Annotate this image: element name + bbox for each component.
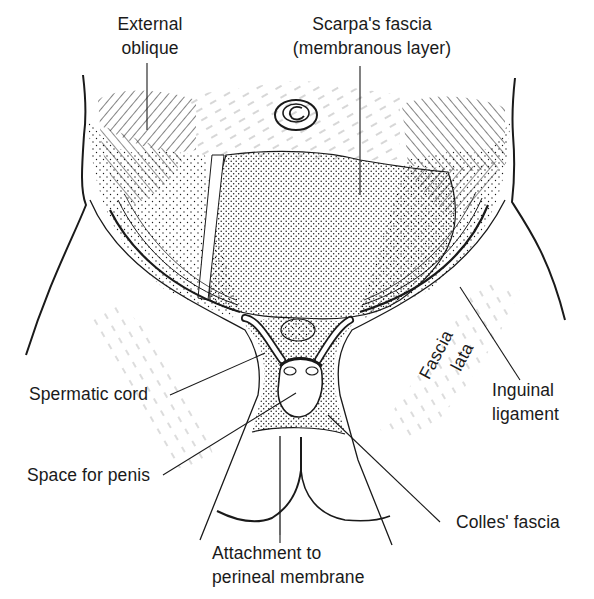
label-scarpas-fascia-line2: (membranous layer) <box>292 36 452 60</box>
label-colles-fascia-text: Colles' fascia <box>456 512 560 532</box>
label-inguinal-ligament: Inguinal ligament <box>492 378 559 426</box>
label-external-oblique-line1: External <box>110 12 190 36</box>
label-external-oblique-line2: oblique <box>110 36 190 60</box>
label-inguinal-ligament-line1: Inguinal <box>492 378 559 402</box>
label-scarpas-fascia: Scarpa's fascia (membranous layer) <box>292 12 452 60</box>
label-attachment-line2: perineal membrane <box>212 565 364 589</box>
label-space-for-penis-text: Space for penis <box>27 465 150 485</box>
label-spermatic-cord-text: Spermatic cord <box>29 384 148 404</box>
label-attachment-line1: Attachment to <box>212 541 364 565</box>
label-space-for-penis: Space for penis <box>27 463 150 487</box>
label-external-oblique: External oblique <box>110 12 190 60</box>
pubic-symphysis-oval <box>281 319 315 341</box>
label-colles-fascia: Colles' fascia <box>456 510 560 534</box>
label-attachment: Attachment to perineal membrane <box>212 541 364 589</box>
label-inguinal-ligament-line2: ligament <box>492 402 559 426</box>
scrotum-outline <box>217 428 390 535</box>
label-scarpas-fascia-line1: Scarpa's fascia <box>292 12 452 36</box>
label-spermatic-cord: Spermatic cord <box>29 382 148 406</box>
